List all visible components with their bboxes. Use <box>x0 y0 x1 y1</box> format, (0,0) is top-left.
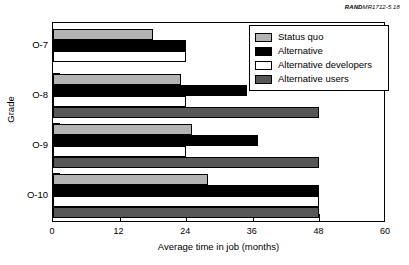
legend-label: Alternative users <box>278 74 349 84</box>
y-category-label-o-7: O-7 <box>14 39 48 50</box>
bar-o-7-alternative <box>53 40 186 51</box>
y-axis-title: Grade <box>5 75 16 145</box>
legend-label: Alternative <box>278 46 323 56</box>
figure-container: RANDMR1712-5.18 01224364860 O-7O-8O-9O-1… <box>0 0 409 265</box>
bar-o-9-altusers <box>53 157 319 168</box>
legend-label: Alternative developers <box>278 60 372 70</box>
x-tick-label: 24 <box>165 226 205 236</box>
legend-swatch-icon <box>255 47 272 56</box>
bar-o-10-alternative <box>53 185 319 196</box>
bar-o-8-statusquo <box>53 74 181 85</box>
x-tick-label: 12 <box>99 226 139 236</box>
chart-legend: Status quoAlternativeAlternative develop… <box>249 25 389 91</box>
bar-o-7-statusquo <box>53 29 153 40</box>
y-category-label-o-9: O-9 <box>14 139 48 150</box>
y-category-label-o-8: O-8 <box>14 89 48 100</box>
x-tick-label: 0 <box>32 226 72 236</box>
x-tick-mark <box>319 214 320 221</box>
legend-label: Status quo <box>278 32 323 42</box>
bar-o-8-alternative <box>53 85 247 96</box>
bar-o-9-alternative <box>53 135 258 146</box>
y-category-separator <box>53 173 60 174</box>
x-tick-label: 36 <box>232 226 272 236</box>
legend-swatch-icon <box>255 33 272 42</box>
source-credit: RANDMR1712-5.18 <box>345 4 400 10</box>
x-tick-label: 60 <box>365 226 405 236</box>
bar-o-10-altusers <box>53 207 319 218</box>
legend-item-alternative-developers: Alternative developers <box>255 58 384 72</box>
bar-o-8-altdevelopers <box>53 96 186 107</box>
bar-o-7-altdevelopers <box>53 51 186 62</box>
legend-item-alternative-users: Alternative users <box>255 72 384 86</box>
source-credit-prefix: RAND <box>345 4 363 10</box>
bar-o-10-statusquo <box>53 174 208 185</box>
bar-o-9-altdevelopers <box>53 146 186 157</box>
x-axis-title: Average time in job (months) <box>52 241 385 252</box>
y-category-label-o-10: O-10 <box>14 189 48 200</box>
source-credit-id: MR1712-5.18 <box>363 4 400 10</box>
y-category-separator <box>53 123 60 124</box>
legend-swatch-icon <box>255 75 272 84</box>
bar-o-9-statusquo <box>53 124 192 135</box>
legend-item-alternative: Alternative <box>255 44 384 58</box>
bar-o-10-altdevelopers <box>53 196 319 207</box>
bar-o-8-altusers <box>53 107 319 118</box>
legend-item-status-quo: Status quo <box>255 30 384 44</box>
x-tick-label: 48 <box>298 226 338 236</box>
legend-swatch-icon <box>255 61 272 70</box>
y-category-separator <box>53 73 60 74</box>
